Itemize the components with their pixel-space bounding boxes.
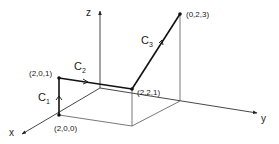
curve-label-c3: C3 <box>141 34 153 48</box>
point-label-201: (2,0,1) <box>29 69 52 78</box>
curve-label-c2: C2 <box>74 60 86 74</box>
axes <box>22 11 257 134</box>
curve-c2 <box>59 78 132 89</box>
x-axis-label: x <box>9 127 14 138</box>
point-label-221: (2,2,1) <box>137 88 160 97</box>
z-axis-label: z <box>86 7 91 18</box>
y-axis <box>100 88 257 113</box>
curve-c3 <box>132 14 180 89</box>
point-label-023: (0,2,3) <box>186 10 209 19</box>
point-label-200: (2,0,0) <box>54 124 77 133</box>
path-diagram: z x y (2,0,0) (2,0,1) (2,2,1) (0,2,3) C1… <box>0 0 279 144</box>
curve-label-c1: C1 <box>38 91 50 105</box>
y-axis-label: y <box>261 113 266 124</box>
